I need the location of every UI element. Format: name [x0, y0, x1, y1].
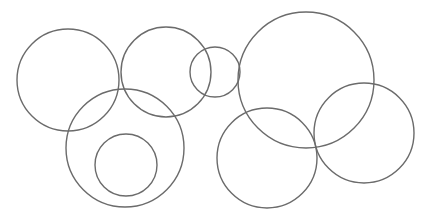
figure-background — [0, 0, 426, 224]
figure-canvas — [0, 0, 426, 224]
circles-figure — [0, 0, 426, 224]
